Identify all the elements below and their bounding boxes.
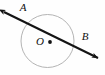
center-point-dot <box>48 40 52 44</box>
label-point-b: B <box>82 30 89 42</box>
circle-secant-diagram: A B O <box>0 0 105 75</box>
label-point-a: A <box>19 1 27 13</box>
label-center-o: O <box>36 35 44 47</box>
geometry-figure: A B O <box>0 0 105 75</box>
circle-outline <box>21 15 74 68</box>
